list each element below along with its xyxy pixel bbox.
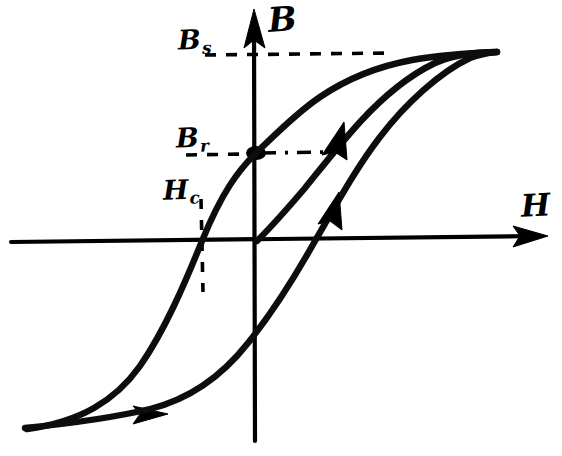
remanence-label-subscript: r [200,136,210,156]
saturation-label-subscript: s [202,38,213,58]
b-axis-label-symbol: B [267,0,299,40]
bs-guide-dashed-line [205,53,392,55]
remanence-label-symbol: B [175,122,199,154]
hysteresis-loop-figure: B H Bs Br Hc [0,0,562,456]
b-axis [244,9,265,441]
br-guide-dashed-line-right [262,152,327,153]
coercivity-label-subscript: c [189,188,200,208]
saturation-label: Bs [178,25,212,53]
b-axis-line [254,22,255,441]
h-axis-label: H [520,189,551,222]
coercivity-label-symbol: H [162,174,189,206]
h-axis-line [11,236,540,242]
br-guide-dashed-line-left [186,154,245,155]
b-axis-label: B [267,1,299,37]
coercivity-label: Hc [163,175,201,203]
initial-magnetization-path [257,52,497,241]
initial-magnetization-curve [257,52,497,241]
h-axis [11,226,548,247]
remanence-label: Br [176,123,210,151]
h-axis-label-symbol: H [520,186,552,224]
saturation-label-symbol: B [177,24,201,56]
hysteresis-diagram-canvas [0,0,562,456]
